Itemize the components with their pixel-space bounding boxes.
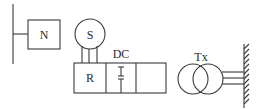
source-circle: S [75, 19, 105, 63]
node-box: N [28, 20, 60, 49]
dc-link-label: DC [113, 47, 130, 61]
ground-wall-icon [244, 44, 249, 108]
transformer: Tx [178, 50, 244, 94]
busbar [13, 4, 28, 64]
schematic-diagram: N S R DC Tx [0, 0, 263, 109]
transformer-label: Tx [194, 50, 207, 64]
node-box-label: N [40, 28, 49, 42]
dc-link-capacitor: DC [113, 47, 130, 93]
rectifier-label: R [86, 71, 94, 85]
source-circle-label: S [87, 28, 94, 42]
